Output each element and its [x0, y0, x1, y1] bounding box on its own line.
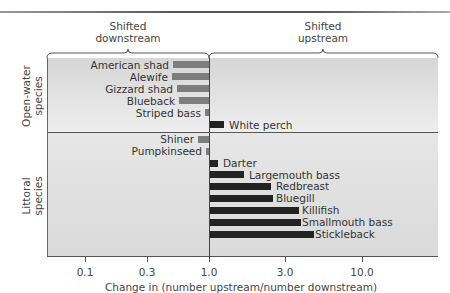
bar-smallmouth-bass [210, 219, 301, 226]
bar-largemouth-bass [210, 171, 244, 178]
tick-1-0 [209, 257, 210, 262]
group-divider [47, 132, 438, 133]
bar-redbreast [210, 183, 271, 190]
bar-alewife [172, 73, 209, 80]
bar-pumpkinseed [206, 148, 209, 155]
label-shiner: Shiner [160, 133, 194, 145]
tick-label-1-0: 1.0 [201, 266, 218, 278]
plot-area: American shad Alewife Gizzard shad Blueb… [47, 58, 438, 257]
bar-stickleback [210, 231, 314, 238]
tick-10-0 [362, 257, 363, 262]
ylabel-littoral-line1: Littoral [20, 156, 32, 236]
label-gizzard-shad: Gizzard shad [105, 83, 173, 95]
bar-gizzard-shad [177, 85, 209, 92]
bar-killifish [210, 207, 299, 214]
label-striped-bass: Striped bass [136, 107, 201, 119]
group-braces [0, 0, 450, 60]
label-bluegill: Bluegill [276, 192, 315, 204]
bar-white-perch [210, 121, 224, 128]
ylabel-littoral: Littoral species [20, 156, 44, 236]
x-axis-line [47, 256, 438, 257]
tick-0-1 [85, 257, 86, 262]
label-redbreast: Redbreast [276, 180, 329, 192]
tick-label-0-3: 0.3 [139, 266, 156, 278]
bar-striped-bass [205, 109, 209, 116]
bar-darter [210, 160, 218, 167]
label-american-shad: American shad [90, 59, 169, 71]
tick-label-0-1: 0.1 [77, 266, 94, 278]
label-blueback: Blueback [127, 95, 175, 107]
tick-0-3 [147, 257, 148, 262]
bar-american-shad [173, 61, 209, 68]
ylabel-littoral-line2: species [32, 156, 44, 236]
baseline-1 [209, 58, 210, 257]
label-pumpkinseed: Pumpkinseed [132, 145, 202, 157]
ylabel-open-water-line1: Open-water [20, 56, 32, 136]
label-white-perch: White perch [229, 119, 293, 131]
y-axis-line [47, 58, 48, 257]
label-killifish: Killifish [302, 204, 339, 216]
tick-label-3-0: 3.0 [277, 266, 294, 278]
label-smallmouth-bass: Smallmouth bass [302, 216, 393, 228]
bar-blueback [179, 97, 209, 104]
label-alewife: Alewife [130, 71, 168, 83]
tick-3-0 [285, 257, 286, 262]
ylabel-open-water: Open-water species [20, 56, 44, 136]
tick-label-10-0: 10.0 [350, 266, 373, 278]
ylabel-open-water-line2: species [32, 56, 44, 136]
label-stickleback: Stickleback [315, 228, 375, 240]
bar-shiner [198, 136, 209, 143]
bar-bluegill [210, 195, 273, 202]
label-darter: Darter [223, 157, 257, 169]
x-axis-label: Change in (number upstream/number downst… [16, 281, 450, 293]
